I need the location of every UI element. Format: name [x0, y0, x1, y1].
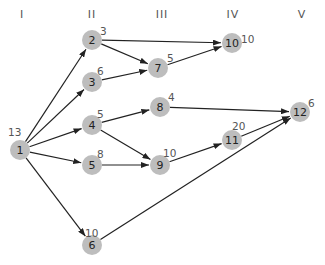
node-weight: 6 [97, 65, 104, 77]
edge-9-11 [169, 144, 221, 162]
edge-8-12 [170, 107, 289, 111]
node-8: 8 [150, 97, 170, 117]
node-weight: 5 [97, 108, 104, 120]
column-label: II [88, 8, 97, 21]
node-weight: 20 [232, 120, 245, 132]
edge-2-10 [102, 40, 221, 43]
node-1: 1 [10, 140, 30, 160]
network-diagram: IIIIIIIVV 113233645586107584910101011201… [0, 0, 325, 265]
node-weight: 3 [100, 25, 107, 37]
edge-6-12 [100, 118, 290, 240]
column-label: IV [227, 8, 240, 21]
edge-7-10 [167, 47, 221, 65]
node-10: 10 [222, 33, 242, 53]
node-weight: 6 [308, 97, 315, 109]
node-2: 2 [82, 30, 102, 50]
node-weight: 13 [8, 126, 21, 138]
node-weight: 10 [163, 147, 176, 159]
column-label: I [20, 8, 24, 21]
node-7: 7 [148, 58, 168, 78]
edge-1-6 [26, 158, 85, 236]
edge-3-7 [102, 70, 147, 80]
edge-1-4 [29, 129, 81, 147]
node-weight: 8 [97, 148, 104, 160]
edge-1-3 [27, 90, 84, 144]
edge-1-2 [25, 49, 85, 141]
edge-4-8 [102, 110, 150, 123]
edge-11-12 [241, 116, 290, 136]
edge-1-5 [30, 152, 81, 163]
node-12: 12 [290, 102, 310, 122]
node-weight: 5 [167, 52, 174, 64]
edge-4-9 [101, 130, 151, 159]
node-weight: 10 [85, 227, 98, 239]
node-11: 11 [222, 130, 242, 150]
column-label: III [156, 8, 169, 21]
edges-layer [0, 0, 325, 265]
column-label: V [298, 8, 307, 21]
node-weight: 4 [168, 91, 175, 103]
edge-2-7 [101, 44, 148, 64]
node-weight: 10 [241, 33, 254, 45]
